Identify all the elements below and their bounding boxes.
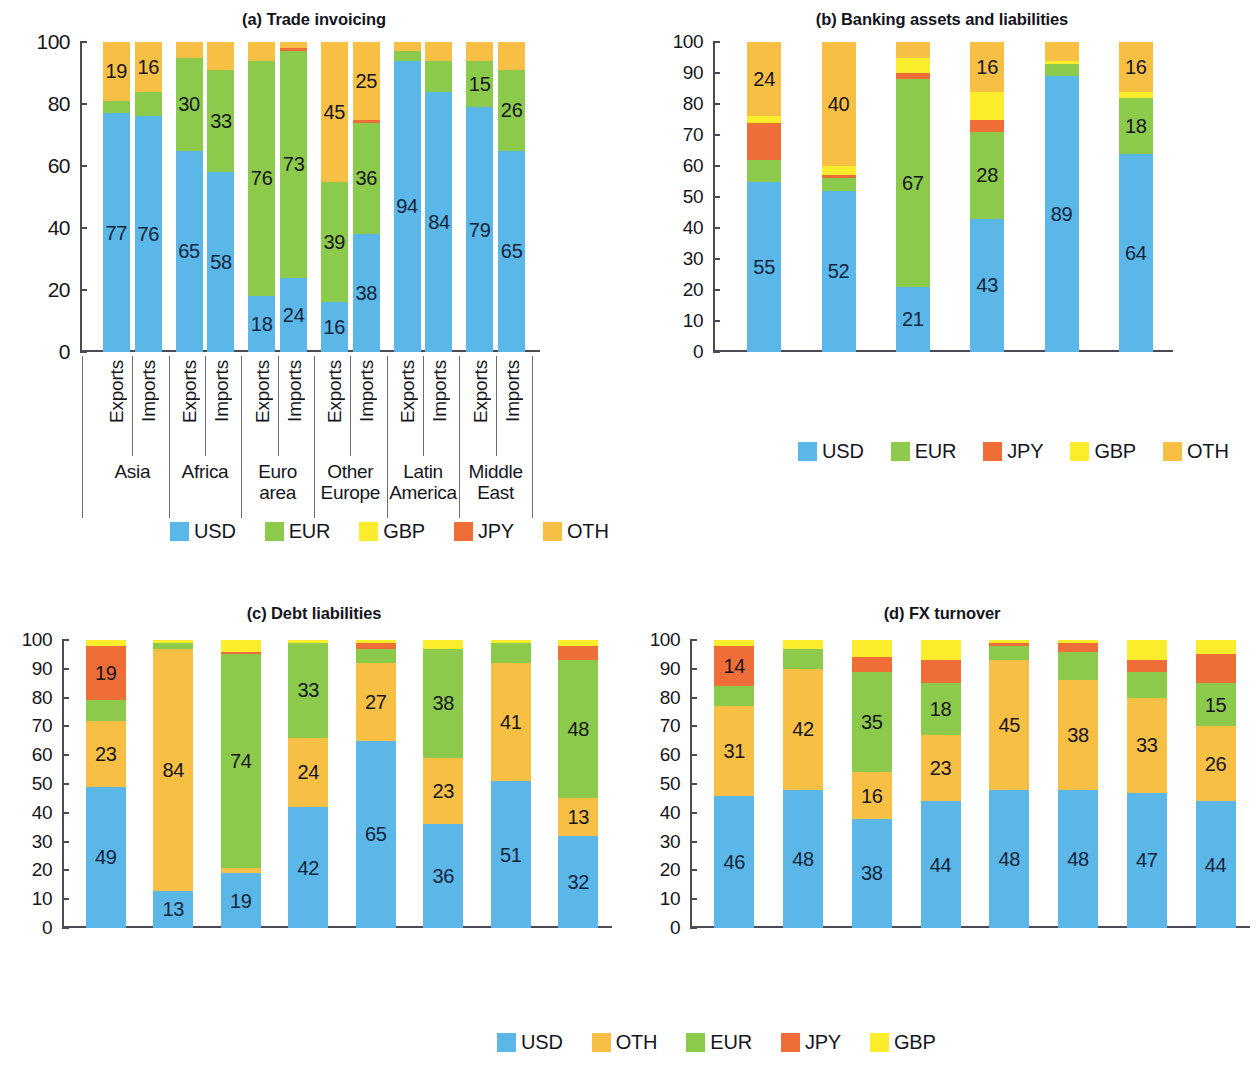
bar-segment-oth — [280, 42, 307, 48]
bar-segment-eur: 18 — [1119, 98, 1153, 154]
y-axis-tick-label: 0 — [59, 340, 80, 364]
y-axis-tick-mark — [713, 134, 720, 136]
panel-c-title: (c) Debt liabilities — [0, 604, 628, 623]
stacked-bar: 1876 — [248, 42, 275, 352]
y-axis-tick-mark — [80, 351, 87, 353]
bar-value-label: 36 — [355, 168, 377, 188]
y-axis-tick-mark — [62, 927, 69, 929]
bar-value-label: 48 — [1067, 849, 1089, 869]
bar-segment-gbp — [970, 92, 1004, 120]
y-axis-tick-label: 40 — [660, 802, 690, 824]
y-axis-tick-label: 50 — [32, 773, 62, 795]
y-axis-tick-mark — [62, 668, 69, 670]
bar-value-label: 14 — [724, 656, 746, 676]
y-axis-tick-mark — [62, 754, 69, 756]
stacked-bar: 4845 — [989, 640, 1029, 928]
bar-segment-oth: 25 — [353, 42, 380, 120]
bar-segment-usd: 38 — [852, 819, 892, 928]
bar-segment-usd: 76 — [135, 116, 162, 352]
bar-segment-usd: 77 — [103, 113, 130, 352]
bar-value-label: 16 — [137, 57, 159, 77]
stacked-bar: 362338 — [423, 640, 463, 928]
bar-segment-jpy — [970, 120, 1004, 132]
bar-value-label: 38 — [355, 283, 377, 303]
y-axis-tick-label: 90 — [32, 658, 62, 680]
y-axis-tick-label: 20 — [660, 859, 690, 881]
bar-segment-usd: 44 — [1196, 801, 1236, 928]
bar-value-label: 41 — [500, 712, 522, 732]
legend-item-gbp: GBP — [1070, 440, 1136, 463]
y-axis-tick-label: 100 — [673, 31, 713, 53]
bar-segment-jpy — [747, 123, 781, 160]
bar-segment-oth: 33 — [1127, 698, 1167, 793]
legend-swatch-eur-icon — [265, 522, 284, 541]
bar-segment-usd: 65 — [356, 741, 396, 928]
legend-item-gbp: GBP — [359, 520, 425, 543]
y-axis-tick-mark — [690, 898, 697, 900]
y-axis-tick-mark — [690, 697, 697, 699]
bar-segment-gbp — [558, 640, 598, 646]
panel-b-legend: USDEURJPYGBPOTH — [798, 440, 1249, 463]
bar-segment-gbp — [747, 116, 781, 122]
y-axis-tick-mark — [713, 196, 720, 198]
stacked-bar: 2473 — [280, 42, 307, 352]
legend-swatch-gbp-icon — [359, 522, 378, 541]
bar-value-label: 47 — [1136, 850, 1158, 870]
bar-value-label: 58 — [210, 252, 232, 272]
bar-segment-oth: 24 — [747, 42, 781, 116]
stacked-bar: 1384 — [153, 640, 193, 928]
y-axis-tick-mark — [713, 258, 720, 260]
legend-swatch-usd-icon — [798, 442, 817, 461]
x-axis-sublabel: Exports — [397, 360, 419, 423]
bar-segment-oth: 42 — [783, 669, 823, 790]
stacked-bar: 442318 — [921, 640, 961, 928]
bar-value-label: 31 — [724, 741, 746, 761]
bar-segment-usd: 52 — [822, 191, 856, 352]
bar-segment-eur: 33 — [288, 643, 328, 738]
stacked-bar: 1974 — [221, 640, 261, 928]
bar-segment-gbp — [153, 640, 193, 643]
bar-value-label: 44 — [930, 855, 952, 875]
bar-segment-eur: 38 — [423, 649, 463, 758]
bar-segment-jpy — [558, 646, 598, 660]
bar-segment-jpy — [1196, 654, 1236, 683]
legend-label: USD — [194, 520, 236, 543]
y-axis-tick-mark — [713, 103, 720, 105]
bar-segment-eur: 28 — [970, 132, 1004, 219]
y-axis-tick-mark — [62, 841, 69, 843]
bar-value-label: 24 — [297, 762, 319, 782]
y-axis-tick-label: 20 — [32, 859, 62, 881]
stacked-bar: 84 — [425, 42, 452, 352]
bar-segment-eur — [1058, 652, 1098, 681]
bar-segment-eur — [356, 649, 396, 663]
bar-segment-oth — [466, 42, 493, 61]
bar-segment-eur: 26 — [498, 70, 525, 151]
x-axis-sublabel: Exports — [179, 360, 201, 423]
bar-segment-eur — [491, 643, 531, 663]
x-axis-sublabel: Imports — [284, 360, 306, 422]
y-axis-tick-mark — [80, 165, 87, 167]
panel-b-plot: 55245240216743281689641816 0102030405060… — [713, 42, 1173, 352]
bar-value-label: 19 — [106, 61, 128, 81]
bar-value-label: 51 — [500, 845, 522, 865]
bar-value-label: 89 — [1051, 204, 1073, 224]
bar-value-label: 49 — [95, 847, 117, 867]
panel-d-plot: 4631144842381635442318484548384733442615… — [690, 640, 1250, 928]
x-axis-sublabel: Exports — [252, 360, 274, 423]
stacked-bar: 463114 — [714, 640, 754, 928]
bar-segment-eur — [783, 649, 823, 669]
bar-segment-eur — [822, 178, 856, 190]
legend-item-usd: USD — [497, 1031, 563, 1054]
y-axis-tick-mark — [713, 320, 720, 322]
bar-value-label: 21 — [902, 309, 924, 329]
bar-value-label: 94 — [396, 196, 418, 216]
legend-swatch-gbp-icon — [870, 1033, 889, 1052]
bar-segment-usd: 84 — [425, 92, 452, 352]
bar-segment-usd: 55 — [747, 182, 781, 353]
bar-segment-oth: 16 — [1119, 42, 1153, 92]
x-axis-sublabel: Exports — [324, 360, 346, 423]
bar-segment-gbp — [1127, 640, 1167, 660]
panel-a-title: (a) Trade invoicing — [0, 10, 628, 29]
bar-segment-jpy — [896, 73, 930, 79]
bar-segment-oth: 23 — [921, 735, 961, 801]
